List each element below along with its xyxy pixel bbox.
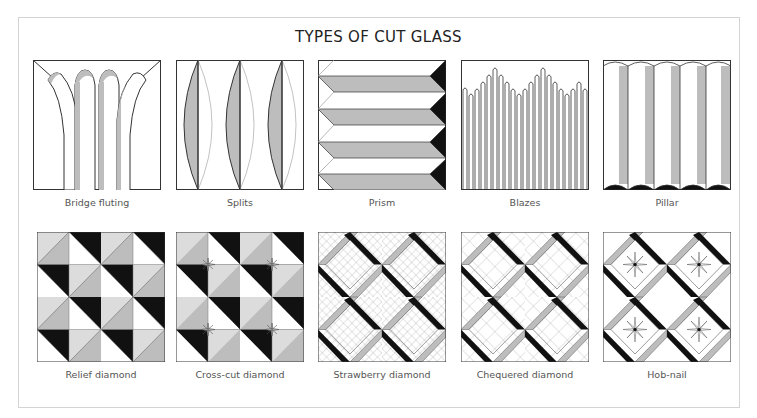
tile-label: Chequered diamond (461, 369, 589, 380)
tile-bridge-fluting: Bridge fluting (33, 60, 161, 208)
tile-label: Cross-cut diamond (176, 369, 304, 380)
chequered-diamond-illustration (461, 232, 589, 362)
hob-nail-illustration (603, 232, 731, 362)
tile-pillar: Pillar (603, 60, 731, 208)
tile-relief-diamond: Relief diamond (37, 232, 165, 380)
tile-label: Blazes (461, 197, 589, 208)
strawberry-diamond-illustration (318, 232, 446, 362)
tile-splits: Splits (176, 60, 304, 208)
blazes-illustration (461, 60, 589, 190)
splits-illustration (176, 60, 304, 190)
relief-diamond-illustration (37, 232, 165, 362)
tile-cross-cut-diamond: Cross-cut diamond (176, 232, 304, 380)
figure-title: TYPES OF CUT GLASS (0, 28, 757, 46)
tile-label: Relief diamond (37, 369, 165, 380)
tile-label: Prism (318, 197, 446, 208)
bridge-fluting-illustration (33, 60, 161, 190)
cross-cut-diamond-illustration (176, 232, 304, 362)
tile-label: Bridge fluting (33, 197, 161, 208)
tile-chequered-diamond: Chequered diamond (461, 232, 589, 380)
tile-prism: Prism (318, 60, 446, 208)
tile-strawberry-diamond: Strawberry diamond (318, 232, 446, 380)
pillar-illustration (603, 60, 731, 190)
tile-label: Pillar (603, 197, 731, 208)
tile-label: Strawberry diamond (318, 369, 446, 380)
tile-label: Splits (176, 197, 304, 208)
tile-hob-nail: Hob-nail (603, 232, 731, 380)
tile-label: Hob-nail (603, 369, 731, 380)
tile-blazes: Blazes (461, 60, 589, 208)
prism-illustration (318, 60, 446, 190)
